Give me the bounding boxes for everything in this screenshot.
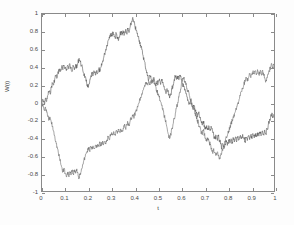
x-tick-mark [206,14,207,17]
y-tick-mark [271,68,274,69]
y-tick-mark [42,139,45,140]
y-tick-label: 0.2 [30,81,38,88]
plot-axes-box [41,13,275,192]
x-tick-label: 0.8 [224,195,232,202]
y-tick-mark [271,50,274,51]
y-tick-mark [42,193,45,194]
y-tick-label: -0.6 [28,153,38,160]
y-tick-mark [42,86,45,87]
x-tick-mark [276,188,277,191]
y-tick-mark [271,121,274,122]
x-tick-mark [65,14,66,17]
x-tick-mark [229,14,230,17]
y-tick-label: 1 [35,10,38,17]
y-tick-mark [42,50,45,51]
y-tick-mark [42,175,45,176]
y-tick-label: -1 [33,189,38,196]
x-tick-label: 0 [39,195,42,202]
x-tick-label: 0.9 [247,195,255,202]
y-tick-mark [42,14,45,15]
y-tick-label: 0.4 [30,63,38,70]
x-tick-mark [229,188,230,191]
y-tick-mark [271,14,274,15]
x-tick-mark [65,188,66,191]
y-tick-mark [271,86,274,87]
x-tick-mark [182,14,183,17]
x-tick-mark [112,14,113,17]
y-tick-label: -0.2 [28,117,38,124]
y-axis-label: W(t) [4,81,11,92]
x-tick-label: 0.3 [107,195,115,202]
x-tick-label: 1 [273,195,276,202]
y-tick-mark [271,32,274,33]
x-tick-mark [112,188,113,191]
figure-canvas: 00.10.20.30.40.50.60.70.80.91 -1-0.8-0.6… [0,0,294,225]
series-line-path-1 [42,17,274,149]
x-tick-label: 0.6 [177,195,185,202]
y-tick-mark [42,68,45,69]
y-tick-label: 0 [35,99,38,106]
x-axis-label: t [41,205,275,212]
y-tick-mark [42,121,45,122]
y-tick-mark [271,157,274,158]
x-tick-mark [136,14,137,17]
x-tick-label: 0.4 [130,195,138,202]
x-tick-mark [159,188,160,191]
y-tick-mark [271,139,274,140]
x-tick-mark [89,14,90,17]
x-tick-mark [159,14,160,17]
x-tick-label: 0.2 [84,195,92,202]
x-tick-label: 0.7 [201,195,209,202]
plot-lines-svg [42,14,274,191]
series-line-path-2 [42,63,274,179]
y-tick-label: 0.6 [30,45,38,52]
x-tick-label: 0.1 [60,195,68,202]
y-tick-label: -0.8 [28,171,38,178]
x-tick-mark [253,14,254,17]
x-tick-label: 0.5 [154,195,162,202]
y-tick-label: 0.8 [30,27,38,34]
x-tick-mark [136,188,137,191]
y-tick-label: -0.4 [28,135,38,142]
x-tick-mark [182,188,183,191]
x-tick-mark [89,188,90,191]
chart-screenshot: 00.10.20.30.40.50.60.70.80.91 -1-0.8-0.6… [0,0,294,225]
y-tick-mark [271,193,274,194]
y-tick-mark [42,157,45,158]
series-group [42,17,274,179]
x-tick-mark [206,188,207,191]
x-tick-mark [253,188,254,191]
x-tick-mark [276,14,277,17]
y-tick-mark [42,104,45,105]
y-tick-mark [271,175,274,176]
x-tick-mark [42,188,43,191]
y-tick-mark [42,32,45,33]
y-tick-mark [271,104,274,105]
